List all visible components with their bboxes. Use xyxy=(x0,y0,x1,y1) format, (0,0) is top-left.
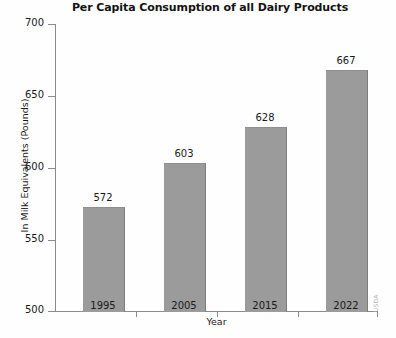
x-tick-label-1995: 1995 xyxy=(68,300,138,311)
y-tick-mark xyxy=(48,240,55,241)
bar-chart: Per Capita Consumption of all Dairy Prod… xyxy=(0,0,396,338)
y-tick-label: 700 xyxy=(4,17,44,28)
y-tick-mark xyxy=(48,311,55,312)
y-tick-mark xyxy=(48,168,55,169)
x-tick-label-2005: 2005 xyxy=(149,300,219,311)
bar-value-1995: 572 xyxy=(68,192,138,203)
bar-2022[interactable] xyxy=(326,70,368,312)
y-tick-label: 500 xyxy=(4,304,44,315)
bar-2005[interactable] xyxy=(164,163,206,312)
y-tick-label: 550 xyxy=(4,233,44,244)
usda-watermark: USDA xyxy=(372,272,379,312)
x-axis-title: Year xyxy=(55,316,378,327)
y-axis-line xyxy=(55,24,56,312)
y-tick-mark xyxy=(48,96,55,97)
x-tick-label-2015: 2015 xyxy=(230,300,300,311)
bar-2015[interactable] xyxy=(245,127,287,312)
bar-value-2005: 603 xyxy=(149,148,219,159)
y-tick-label: 650 xyxy=(4,89,44,100)
bar-value-2022: 667 xyxy=(311,55,381,66)
chart-title: Per Capita Consumption of all Dairy Prod… xyxy=(60,1,360,14)
y-tick-mark xyxy=(48,24,55,25)
bar-1995[interactable] xyxy=(83,207,125,312)
y-tick-label: 600 xyxy=(4,161,44,172)
bar-value-2015: 628 xyxy=(230,112,300,123)
x-tick-label-2022: 2022 xyxy=(311,300,381,311)
